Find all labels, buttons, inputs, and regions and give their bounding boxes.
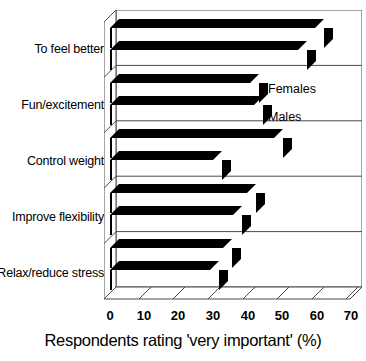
category-axis-labels: To feel better Fun/excitement Control we… — [0, 0, 104, 305]
bar-face — [110, 193, 112, 213]
bar-chart: To feel better Fun/excitement Control we… — [0, 0, 366, 361]
category-label-2: Control weight — [27, 155, 104, 168]
bar-males-control-weight — [110, 160, 222, 180]
bar-top-face — [110, 206, 242, 215]
x-tick-20: 20 — [171, 308, 185, 323]
bar-face — [110, 160, 112, 180]
bar-males-fun-excitement — [110, 105, 263, 125]
x-tick-10: 10 — [137, 308, 151, 323]
bar-top-face — [110, 239, 232, 248]
category-label-0: To feel better — [35, 43, 104, 56]
x-tick-70: 70 — [344, 308, 358, 323]
bar-face — [110, 50, 112, 70]
x-tick-40: 40 — [241, 308, 255, 323]
x-tick-50: 50 — [275, 308, 289, 323]
legend-item-males: Males — [268, 110, 301, 124]
x-axis-title: Respondents rating 'very important' (%) — [0, 331, 366, 350]
legend-item-females: Females — [268, 82, 316, 96]
x-tick-60: 60 — [310, 308, 324, 323]
category-label-3: Improve flexibility — [12, 211, 104, 224]
category-label-1: Fun/excitement — [21, 99, 104, 112]
bar-top-face — [110, 41, 307, 50]
bar-top-face — [110, 261, 219, 270]
category-label-4: Relax/reduce stress — [0, 267, 104, 280]
bar-face — [110, 83, 112, 103]
bar-face — [110, 215, 112, 235]
bar-males-improve-flexibility — [110, 215, 242, 235]
bar-face — [110, 105, 112, 125]
x-axis: 0 10 20 30 40 50 60 70 — [104, 296, 366, 326]
bar-top-face — [110, 129, 283, 138]
x-tick-30: 30 — [206, 308, 220, 323]
bar-top-face — [110, 19, 324, 28]
bar-males-relax-reduce-stress — [110, 270, 219, 290]
bar-face — [110, 270, 112, 290]
bar-face — [110, 28, 112, 48]
bar-top-face — [110, 96, 263, 105]
plot-area: Females Males — [104, 10, 362, 306]
x-tick-0: 0 — [106, 308, 113, 323]
bar-top-face — [110, 184, 256, 193]
bar-face — [110, 248, 112, 268]
bar-face — [110, 138, 112, 158]
bar-top-face — [110, 74, 259, 83]
bar-males-to-feel-better — [110, 50, 307, 70]
bar-top-face — [110, 151, 222, 160]
